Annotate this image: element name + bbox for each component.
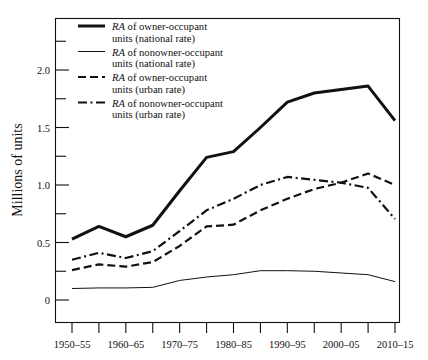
y-tick-label: 2.0: [37, 65, 50, 76]
legend-label-line2: units (urban rate): [112, 84, 185, 96]
legend-ra-abbrev: RA: [111, 21, 125, 32]
x-tick-label: 1990–95: [269, 339, 306, 350]
plot-frame: [56, 19, 400, 323]
legend-label-rest: of owner-occupant: [125, 72, 207, 83]
y-tick-label: 1.0: [37, 180, 50, 191]
legend-label-rest: of owner-occupant: [125, 21, 207, 32]
legend-ra-abbrev: RA: [111, 98, 125, 109]
x-tick-label: 1960–65: [107, 339, 144, 350]
line-chart: 00.51.01.52.0 1950–551960–651970–751980–…: [0, 0, 428, 360]
legend-ra-abbrev: RA: [111, 47, 125, 58]
legend-ra-abbrev: RA: [111, 72, 125, 83]
legend-label-line1: RA of nonowner-occupant: [111, 98, 223, 109]
x-tick-label: 1970–75: [161, 339, 198, 350]
x-tick-label: 1980–85: [215, 339, 252, 350]
legend-label-line2: units (national rate): [112, 58, 195, 70]
y-tick-label: 0: [45, 295, 50, 306]
x-tick-label: 2010–15: [377, 339, 414, 350]
legend-label-rest: of nonowner-occupant: [125, 47, 223, 58]
y-axis-title: Millions of units: [10, 123, 25, 216]
legend-label-rest: of nonowner-occupant: [125, 98, 223, 109]
x-tick-label: 2000–05: [323, 339, 360, 350]
x-axis-ticks: 1950–551960–651970–751980–851990–952000–…: [54, 323, 414, 350]
legend-label-line1: RA of owner-occupant: [111, 21, 207, 32]
chart-container: 00.51.01.52.0 1950–551960–651970–751980–…: [0, 0, 428, 360]
legend-label-line1: RA of nonowner-occupant: [111, 47, 223, 58]
legend-label-line1: RA of owner-occupant: [111, 72, 207, 83]
x-tick-label: 1950–55: [54, 339, 91, 350]
legend-label-line2: units (urban rate): [112, 109, 185, 121]
legend-label-line2: units (national rate): [112, 33, 195, 45]
y-tick-label: 1.5: [37, 123, 50, 134]
y-tick-label: 0.5: [37, 238, 50, 249]
